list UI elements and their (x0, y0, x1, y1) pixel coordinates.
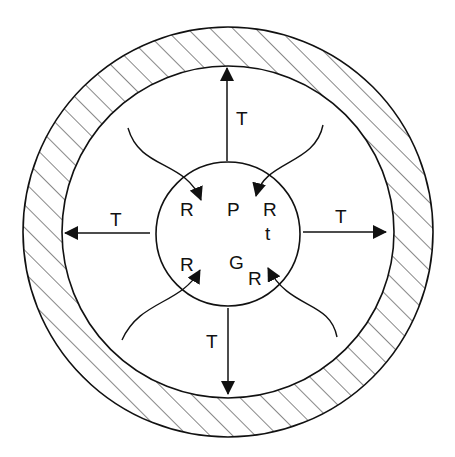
label-r-bottom-right: R (248, 269, 262, 288)
label-p: P (227, 200, 240, 219)
label-t-right: T (335, 207, 347, 226)
curved-arrow-top-left (128, 128, 201, 200)
label-r-top-right: R (263, 200, 277, 219)
core-circle (156, 162, 300, 306)
label-t-left: T (110, 210, 122, 229)
curved-arrow-bottom-left (122, 270, 200, 340)
diagram-graphic (0, 0, 455, 457)
label-g: G (229, 253, 244, 272)
label-t-top: T (236, 109, 248, 128)
label-t-lower: t (265, 224, 270, 243)
diagram: R P R t R G R T T T T (0, 0, 455, 457)
curved-arrow-top-right (256, 125, 323, 196)
label-t-bottom: T (206, 332, 218, 351)
label-r-top-left: R (180, 200, 194, 219)
label-r-bottom-left: R (180, 255, 194, 274)
curved-arrow-bottom-right (268, 268, 337, 337)
